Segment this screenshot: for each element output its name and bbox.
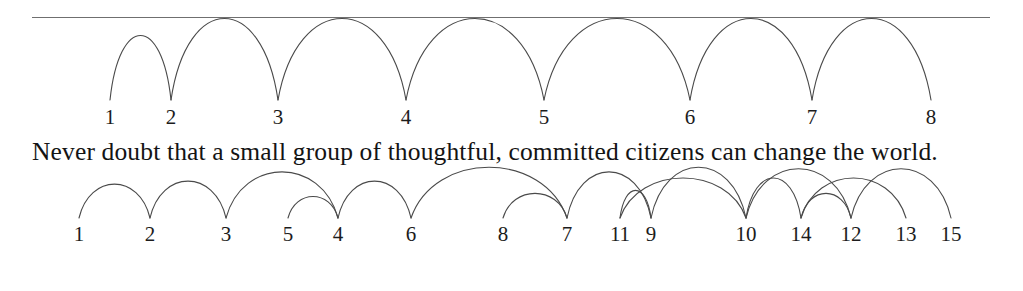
- top-index-item-7: 8: [926, 105, 937, 129]
- sentence-text: Never doubt that a small group of though…: [32, 138, 992, 166]
- bottom-arc-diagram-arc-15: [851, 169, 951, 218]
- top-index-item-2: 3: [273, 105, 284, 129]
- top-index-item-6: 7: [807, 105, 818, 129]
- top-arc-diagram-arc-5: [690, 19, 812, 100]
- bottom-arc-diagram-arc-14: [801, 178, 906, 218]
- bottom-index-item-1: 2: [145, 222, 156, 246]
- top-arc-diagram-arc-1: [171, 19, 278, 100]
- bottom-index-row: 123546871191014121315: [0, 222, 1023, 252]
- bottom-arc-diagram-arc-4: [338, 181, 411, 218]
- bottom-index-item-10: 10: [736, 222, 757, 246]
- top-index-item-0: 1: [105, 105, 116, 129]
- top-arc-diagram-arc-2: [278, 19, 406, 100]
- bottom-arc-diagram-arc-3: [288, 196, 338, 218]
- bottom-index-item-6: 8: [498, 222, 509, 246]
- top-index-row: 12345678: [0, 105, 1023, 135]
- bottom-index-item-9: 9: [646, 222, 657, 246]
- bottom-index-item-3: 5: [283, 222, 294, 246]
- bottom-arc-diagram-arc-10: [651, 167, 746, 218]
- top-index-item-5: 6: [685, 105, 696, 129]
- top-index-item-3: 4: [401, 105, 412, 129]
- bottom-arc-diagram-arc-9: [620, 178, 746, 218]
- bottom-arc-diagram-arc-6: [503, 193, 567, 218]
- bottom-index-item-13: 13: [896, 222, 917, 246]
- bottom-arc-diagram-arc-0: [79, 184, 150, 218]
- bottom-index-item-4: 4: [333, 222, 344, 246]
- top-arc-diagram-arc-0: [110, 35, 171, 100]
- horizontal-divider: [32, 17, 990, 18]
- bottom-arc-diagram-arc-2: [226, 172, 338, 218]
- bottom-arc-diagram-arc-7: [567, 172, 651, 218]
- bottom-index-item-11: 14: [791, 222, 812, 246]
- top-arc-diagram-arc-6: [812, 19, 931, 100]
- bottom-arc-diagram-arc-13: [801, 193, 851, 218]
- top-index-item-1: 2: [166, 105, 177, 129]
- bottom-index-item-2: 3: [221, 222, 232, 246]
- bottom-index-item-12: 12: [841, 222, 862, 246]
- top-arc-diagram-arc-4: [544, 19, 690, 100]
- bottom-index-item-7: 7: [562, 222, 573, 246]
- bottom-arc-diagram-arc-11: [746, 169, 851, 218]
- bottom-arc-diagram-arc-5: [411, 167, 567, 218]
- bottom-arc-diagram-arc-8: [620, 190, 651, 218]
- bottom-arc-diagram-arc-12: [746, 178, 801, 218]
- bottom-arc-diagram-arc-1: [150, 181, 226, 218]
- bottom-index-item-5: 6: [406, 222, 417, 246]
- top-arc-diagram-arc-3: [406, 19, 544, 100]
- bottom-index-item-14: 15: [941, 222, 962, 246]
- top-index-item-4: 5: [539, 105, 550, 129]
- arc-diagram-figure: 12345678 Never doubt that a small group …: [0, 0, 1023, 291]
- bottom-index-item-0: 1: [74, 222, 85, 246]
- bottom-index-item-8: 11: [610, 222, 630, 246]
